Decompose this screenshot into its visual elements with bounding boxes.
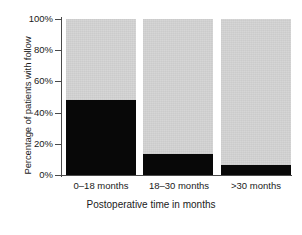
bar-group-2 [221, 19, 291, 175]
bar-group-1 [143, 19, 213, 175]
plot-area [66, 19, 292, 175]
y-tick-mark-80 [55, 50, 61, 51]
y-tick-label-40: 40% [13, 108, 53, 118]
y-tick-mark-60 [55, 81, 61, 82]
y-tick-label-100: 100% [13, 14, 53, 24]
y-tick-mark-40 [55, 113, 61, 114]
y-tick-label-20: 20% [13, 139, 53, 149]
bar-group-0 [66, 19, 136, 175]
y-tick-label-80: 80% [13, 45, 53, 55]
y-tick-label-60: 60% [13, 76, 53, 86]
y-tick-mark-0 [55, 175, 61, 176]
bar-segment-dark-0 [66, 100, 136, 175]
x-axis-title: Postoperative time in months [0, 199, 302, 210]
bar-segment-light-2 [221, 19, 291, 165]
x-tick-label-2: >30 months [206, 180, 302, 191]
bar-segment-dark-2 [221, 165, 291, 175]
bar-segment-light-1 [143, 19, 213, 154]
chart-figure: Percentage of patients with follow 100% … [0, 0, 302, 235]
y-tick-label-0: 0% [13, 170, 53, 180]
bar-segment-dark-1 [143, 154, 213, 175]
y-tick-mark-100 [55, 19, 61, 20]
y-axis-line [61, 17, 62, 177]
bar-segment-light-0 [66, 19, 136, 100]
y-tick-mark-20 [55, 144, 61, 145]
x-axis-line [61, 175, 292, 176]
